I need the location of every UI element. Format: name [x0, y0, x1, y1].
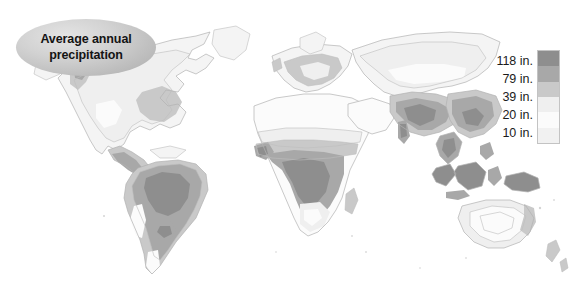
- legend-swatch-39: [538, 82, 559, 97]
- legend-swatch-10: [538, 112, 559, 127]
- legend-label-79: 79 in.: [470, 70, 533, 88]
- legend-color-scale: [537, 50, 560, 144]
- legend-swatch-20: [538, 97, 559, 112]
- legend-swatch-79: [538, 66, 559, 81]
- legend-swatch-118: [538, 51, 559, 66]
- page-title: Average annual precipitation: [33, 32, 138, 63]
- legend-label-39: 39 in.: [470, 88, 533, 106]
- title-line-2: precipitation: [40, 48, 131, 63]
- legend-label-column: 118 in. 79 in. 39 in. 20 in. 10 in.: [470, 50, 533, 142]
- map-title-badge: Average annual precipitation: [16, 19, 156, 76]
- map-legend: 118 in. 79 in. 39 in. 20 in. 10 in.: [470, 50, 560, 144]
- legend-swatch-lowest: [538, 128, 559, 143]
- legend-label-118: 118 in.: [470, 52, 533, 70]
- precipitation-map-figure: .c118{fill:#8e8e8e;} .c79 {fill:#a8a8a8;…: [0, 0, 587, 305]
- legend-label-20: 20 in.: [470, 106, 533, 124]
- legend-label-10: 10 in.: [470, 124, 533, 142]
- title-line-1: Average annual: [40, 32, 131, 46]
